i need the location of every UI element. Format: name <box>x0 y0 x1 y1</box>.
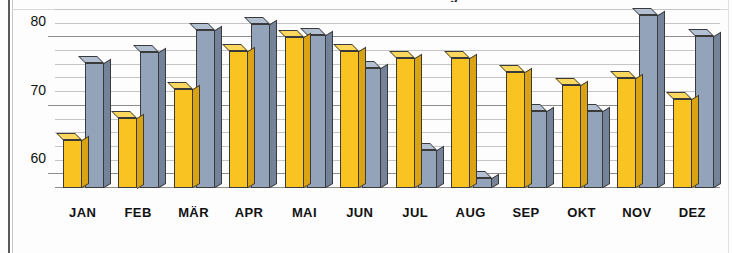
bar-top-face <box>389 51 415 58</box>
bar-top-face <box>333 44 359 51</box>
bar-side-face <box>603 107 610 188</box>
bar-front-face <box>562 85 581 188</box>
bar-apr-series1[interactable] <box>229 51 248 188</box>
bar-sep-series1[interactable] <box>506 72 525 188</box>
y-axis-tick-label: 70 <box>30 82 46 98</box>
bar-side-face <box>714 32 721 188</box>
x-axis-label-aug: AUG <box>443 205 498 227</box>
bar-okt-series1[interactable] <box>562 85 581 188</box>
bar-side-face <box>636 74 643 188</box>
bar-top-face <box>555 78 581 85</box>
bar-side-face <box>82 136 89 188</box>
bar-side-face <box>270 19 277 188</box>
bar-group <box>110 10 165 188</box>
bar-dez-series1[interactable] <box>673 99 692 188</box>
y-axis-tick-mark <box>48 173 55 174</box>
bar-group <box>221 10 276 188</box>
bar-front-face <box>506 72 525 188</box>
bar-top-face <box>167 82 193 89</box>
bar-group <box>166 10 221 188</box>
bar-top-face <box>666 92 692 99</box>
bar-top-face <box>189 23 215 30</box>
x-axis-label-jan: JAN <box>55 205 110 227</box>
bar-top-face <box>278 30 304 37</box>
bar-top-face <box>244 17 270 24</box>
x-axis-label-mär: MÄR <box>166 205 221 227</box>
y-axis-tick-mark <box>48 36 55 37</box>
x-axis-label-jul: JUL <box>388 205 443 227</box>
bar-top-face <box>56 133 82 140</box>
bar-side-face <box>581 81 588 188</box>
bar-front-face <box>229 51 248 188</box>
bar-side-face <box>692 95 699 188</box>
bar-jul-series1[interactable] <box>396 58 415 188</box>
bar-jun-series1[interactable] <box>340 51 359 188</box>
bar-side-face <box>381 64 388 188</box>
bar-top-face <box>300 28 326 35</box>
x-axis-labels: JANFEBMÄRAPRMAIJUNJULAUGSEPOKTNOVDEZ <box>55 205 720 227</box>
y-axis-tick-mark <box>48 105 55 106</box>
bar-group <box>665 10 720 188</box>
bar-side-face <box>359 47 366 188</box>
bar-side-face <box>547 107 554 188</box>
bar-groups <box>55 10 720 188</box>
bar-front-face <box>673 99 692 188</box>
bar-mär-series1[interactable] <box>174 89 193 188</box>
chart-title-clipped: Durchschnittliche Auslastung <box>0 0 732 2</box>
bar-group <box>609 10 664 188</box>
plot-area: 607080 <box>55 10 720 188</box>
bar-top-face <box>111 111 137 118</box>
bar-feb-series1[interactable] <box>118 118 137 189</box>
bar-group <box>55 10 110 188</box>
y-axis-tick-label: 80 <box>30 13 46 29</box>
bar-top-face <box>133 45 159 52</box>
frame-left-border <box>8 0 10 253</box>
bar-side-face <box>193 85 200 188</box>
x-axis-label-okt: OKT <box>554 205 609 227</box>
bar-top-face <box>499 65 525 72</box>
bar-side-face <box>104 59 111 188</box>
bar-group <box>388 10 443 188</box>
bar-jan-series1[interactable] <box>63 140 82 188</box>
bar-side-face <box>437 146 444 188</box>
x-axis-label-sep: SEP <box>498 205 553 227</box>
bar-front-face <box>340 51 359 188</box>
bar-top-face <box>78 56 104 63</box>
x-axis-label-mai: MAI <box>277 205 332 227</box>
bar-top-face <box>222 44 248 51</box>
bar-front-face <box>118 118 137 189</box>
bar-side-face <box>415 54 422 188</box>
frame-right-border <box>728 0 729 253</box>
bar-mai-series1[interactable] <box>285 37 304 188</box>
y-axis-tick-label: 60 <box>30 150 46 166</box>
bar-side-face <box>326 31 333 188</box>
bar-top-face <box>688 29 714 36</box>
bar-nov-series1[interactable] <box>617 78 636 188</box>
bar-side-face <box>658 11 665 188</box>
bar-top-face <box>632 8 658 15</box>
bar-front-face <box>63 140 82 188</box>
bar-group <box>498 10 553 188</box>
bar-group <box>443 10 498 188</box>
bar-front-face <box>451 58 470 188</box>
x-axis-label-dez: DEZ <box>665 205 720 227</box>
chart-screenshot: Durchschnittliche Auslastung 607080 JANF… <box>0 0 732 253</box>
bar-side-face <box>137 113 144 188</box>
bar-side-face <box>248 47 255 188</box>
frame-left-inner-border <box>12 0 13 253</box>
bar-side-face <box>470 54 477 188</box>
x-axis-label-jun: JUN <box>332 205 387 227</box>
bar-top-face <box>444 51 470 58</box>
bar-group <box>332 10 387 188</box>
x-axis-label-feb: FEB <box>110 205 165 227</box>
x-axis-label-apr: APR <box>221 205 276 227</box>
bar-front-face <box>174 89 193 188</box>
bar-front-face <box>285 37 304 188</box>
bar-side-face <box>304 32 311 188</box>
bar-group <box>277 10 332 188</box>
bar-group <box>554 10 609 188</box>
bar-aug-series1[interactable] <box>451 58 470 188</box>
bar-front-face <box>396 58 415 188</box>
bar-front-face <box>617 78 636 188</box>
bar-side-face <box>525 67 532 188</box>
